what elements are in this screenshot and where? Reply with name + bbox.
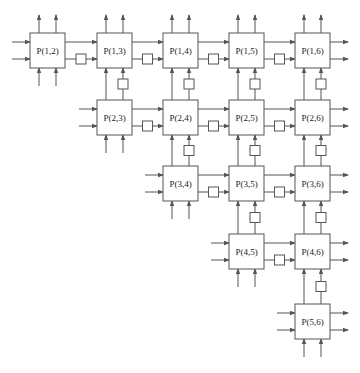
delay-register <box>316 213 326 223</box>
delay-register <box>184 79 194 89</box>
processor-node: P(4,5) <box>229 234 264 269</box>
processor-node: P(2,4) <box>163 100 198 135</box>
processor-node: P(1,6) <box>295 33 330 68</box>
processor-label: P(5,6) <box>301 317 323 327</box>
processor-label: P(1,3) <box>103 46 125 56</box>
processor-label: P(1,6) <box>301 46 323 56</box>
delay-register <box>275 255 285 265</box>
delay-register <box>275 121 285 131</box>
delay-register <box>250 79 260 89</box>
processor-node: P(1,5) <box>229 33 264 68</box>
delay-register <box>250 146 260 156</box>
processor-label: P(4,5) <box>235 247 257 257</box>
processor-label: P(3,4) <box>169 179 191 189</box>
delay-register <box>184 146 194 156</box>
processor-node: P(4,6) <box>295 234 330 269</box>
systolic-array-diagram: P(1,2)P(1,3)P(1,4)P(1,5)P(1,6)P(2,3)P(2,… <box>0 0 360 373</box>
processor-node: P(2,3) <box>97 100 132 135</box>
delay-register <box>118 79 128 89</box>
processor-node: P(3,5) <box>229 166 264 201</box>
delay-registers <box>76 54 326 292</box>
processors: P(1,2)P(1,3)P(1,4)P(1,5)P(1,6)P(2,3)P(2,… <box>30 33 330 339</box>
processor-label: P(2,4) <box>169 113 191 123</box>
processor-node: P(3,4) <box>163 166 198 201</box>
processor-node: P(2,5) <box>229 100 264 135</box>
processor-label: P(1,4) <box>169 46 191 56</box>
delay-register <box>316 146 326 156</box>
processor-node: P(3,6) <box>295 166 330 201</box>
delay-register <box>209 187 219 197</box>
processor-node: P(1,2) <box>30 33 65 68</box>
processor-node: P(1,4) <box>163 33 198 68</box>
processor-node: P(2,6) <box>295 100 330 135</box>
processor-label: P(1,2) <box>36 46 58 56</box>
processor-node: P(5,6) <box>295 304 330 339</box>
delay-register <box>250 213 260 223</box>
processor-label: P(1,5) <box>235 46 257 56</box>
delay-register <box>275 54 285 64</box>
processor-label: P(4,6) <box>301 247 323 257</box>
processor-label: P(2,3) <box>103 113 125 123</box>
delay-register <box>275 187 285 197</box>
delay-register <box>316 79 326 89</box>
delay-register <box>209 54 219 64</box>
delay-register <box>76 54 86 64</box>
delay-register <box>209 121 219 131</box>
processor-label: P(2,5) <box>235 113 257 123</box>
delay-register <box>143 54 153 64</box>
delay-register <box>143 121 153 131</box>
processor-label: P(3,6) <box>301 179 323 189</box>
delay-register <box>316 282 326 292</box>
processor-label: P(2,6) <box>301 113 323 123</box>
processor-label: P(3,5) <box>235 179 257 189</box>
processor-node: P(1,3) <box>97 33 132 68</box>
